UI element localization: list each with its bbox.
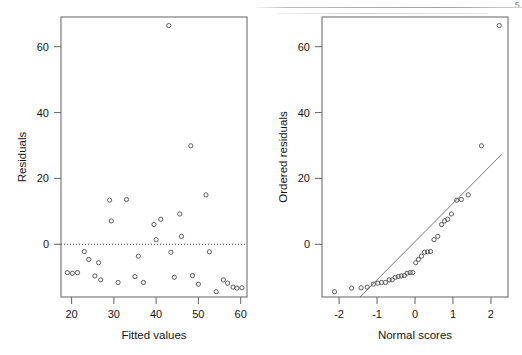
data-point [225, 281, 229, 285]
data-point [65, 271, 69, 275]
x-tick-label: 60 [235, 308, 247, 320]
data-point [159, 217, 163, 221]
data-point [428, 249, 432, 253]
data-point [109, 219, 113, 223]
data-point [497, 23, 501, 27]
data-point [169, 250, 173, 254]
data-point [449, 212, 453, 216]
x-tick-label: -2 [334, 308, 344, 320]
data-point [70, 271, 74, 275]
plot-frame [61, 17, 247, 297]
data-point [152, 222, 156, 226]
data-point [436, 234, 440, 238]
data-point [365, 285, 369, 289]
panel-residuals-vs-fitted: 20304050600204060Fitted valuesResiduals [0, 0, 261, 355]
data-point [204, 193, 208, 197]
y-tick-label: 0 [43, 238, 49, 250]
data-point [133, 274, 137, 278]
data-point [350, 286, 354, 290]
data-point [136, 254, 140, 258]
x-tick-label: 30 [108, 308, 120, 320]
y-axis-title: Ordered residuals [277, 111, 289, 203]
y-tick-label: 40 [298, 107, 310, 119]
data-point [332, 290, 336, 294]
data-point [179, 234, 183, 238]
data-point [359, 286, 363, 290]
x-tick-label: -1 [372, 308, 382, 320]
y-tick-label: 20 [37, 172, 49, 184]
residual-plot-svg: 20304050600204060Fitted valuesResiduals [0, 0, 261, 355]
x-tick-label: 40 [150, 308, 162, 320]
data-point [75, 271, 79, 275]
plot-frame [322, 17, 508, 297]
data-point [108, 198, 112, 202]
data-point [459, 197, 463, 201]
data-point [214, 290, 218, 294]
data-point [240, 286, 244, 290]
qq-plot-svg: -2-10120204060Normal scoresOrdered resid… [261, 0, 522, 355]
qq-reference-line [360, 154, 502, 297]
data-point [439, 222, 443, 226]
data-point [190, 273, 194, 277]
data-point [124, 197, 128, 201]
data-point [116, 280, 120, 284]
data-point [178, 212, 182, 216]
data-point [141, 280, 145, 284]
x-tick-label: 0 [412, 308, 418, 320]
data-point [432, 238, 436, 242]
y-axis-title: Residuals [16, 132, 28, 183]
data-point [402, 273, 406, 277]
x-axis-title: Fitted values [121, 329, 186, 341]
figure-page: 5 20304050600204060Fitted valuesResidual… [0, 0, 522, 355]
x-tick-label: 2 [488, 308, 494, 320]
data-point [419, 254, 423, 258]
data-point [196, 282, 200, 286]
data-point [479, 144, 483, 148]
y-tick-label: 60 [37, 41, 49, 53]
data-point [82, 249, 86, 253]
data-point [93, 274, 97, 278]
y-tick-label: 0 [304, 238, 310, 250]
x-tick-label: 20 [65, 308, 77, 320]
data-point [172, 275, 176, 279]
data-point [167, 23, 171, 27]
y-tick-label: 20 [298, 172, 310, 184]
data-point [87, 257, 91, 261]
panel-normal-qq: -2-10120204060Normal scoresOrdered resid… [261, 0, 522, 355]
y-tick-label: 40 [37, 107, 49, 119]
y-tick-label: 60 [298, 41, 310, 53]
data-point [221, 278, 225, 282]
data-point [99, 278, 103, 282]
data-point [189, 144, 193, 148]
x-tick-label: 1 [450, 308, 456, 320]
data-point [207, 250, 211, 254]
x-tick-label: 50 [192, 308, 204, 320]
data-point [411, 271, 415, 275]
data-point [97, 261, 101, 265]
x-axis-title: Normal scores [378, 329, 452, 341]
data-point [466, 193, 470, 197]
data-point [154, 238, 158, 242]
